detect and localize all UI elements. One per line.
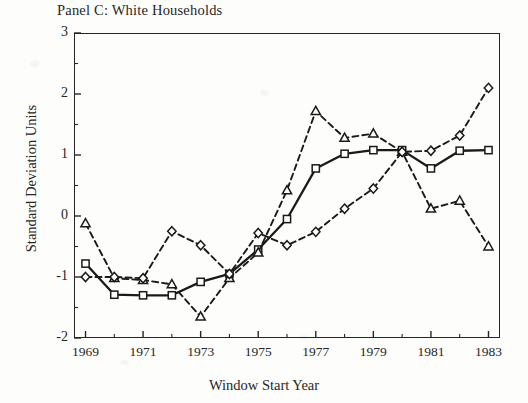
data-point-triangle [455,196,464,204]
x-tick-label: 1983 [465,344,511,360]
y-tick-label: -2 [22,329,68,345]
axis-ticks [74,33,488,338]
x-tick-label: 1979 [350,344,396,360]
data-point-triangle [369,129,378,137]
data-point-square [111,291,118,298]
x-tick-label: 1973 [178,344,224,360]
data-point-diamond [196,241,204,250]
data-point-diamond [427,146,435,155]
y-tick-label: 0 [22,207,68,223]
data-point-square [456,147,463,154]
chart-figure: Panel C: White Households Standard Devia… [0,0,528,403]
y-tick-label: 3 [22,24,68,40]
y-tick-label: -1 [22,268,68,284]
data-point-triangle [311,106,320,114]
data-point-triangle [282,186,291,194]
data-point-square [370,147,377,154]
x-tick-label: 1971 [120,344,166,360]
y-tick-label: 1 [22,146,68,162]
series-diamonds [81,83,492,283]
data-point-triangle [484,242,493,250]
data-point-square [341,150,348,157]
data-point-diamond [81,272,89,281]
x-tick-label: 1977 [293,344,339,360]
x-tick-label: 1969 [63,344,109,360]
data-point-square [168,292,175,299]
y-tick-label: 2 [22,85,68,101]
series-triangles [81,106,493,320]
chart-canvas [0,0,528,403]
data-series-layer [81,83,493,320]
data-point-square [427,165,434,172]
data-point-triangle [81,219,90,227]
data-point-diamond [283,241,291,250]
x-tick-label: 1975 [235,344,281,360]
data-point-square [197,278,204,285]
data-point-square [312,165,319,172]
data-point-square [82,260,89,267]
data-point-diamond [168,227,176,236]
data-point-square [485,147,492,154]
data-point-square [139,292,146,299]
data-point-triangle [196,312,205,320]
x-tick-label: 1981 [408,344,454,360]
data-point-square [283,215,290,222]
